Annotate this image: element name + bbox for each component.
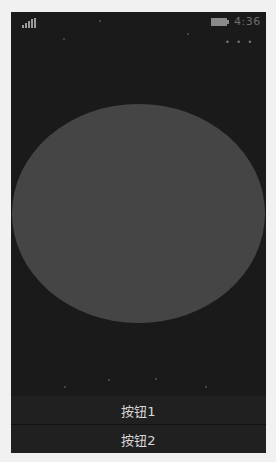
phone-screen: 4:36 • • • 按钮1 按钮2 bbox=[11, 12, 266, 453]
ellipse-shape bbox=[12, 104, 265, 323]
status-time: 4:36 bbox=[234, 15, 261, 28]
more-options-button[interactable]: • • • bbox=[225, 38, 254, 47]
button-1[interactable]: 按钮1 bbox=[11, 396, 266, 424]
status-bar: 4:36 bbox=[11, 12, 266, 34]
signal-bars-icon bbox=[22, 18, 36, 28]
button-group: 按钮1 按钮2 bbox=[11, 396, 266, 453]
button-2[interactable]: 按钮2 bbox=[11, 425, 266, 453]
battery-icon bbox=[211, 18, 227, 26]
